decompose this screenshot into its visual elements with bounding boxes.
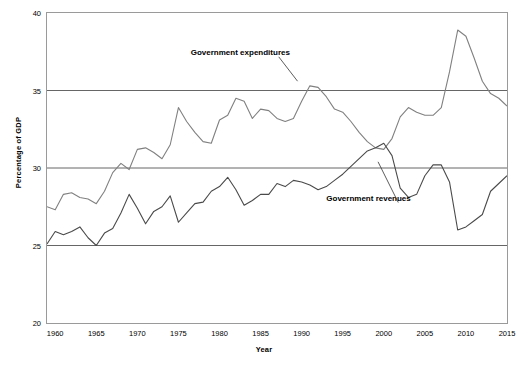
chart-container: Government expendituresGovernment revenu… xyxy=(0,0,528,368)
x-tick-label: 1980 xyxy=(211,329,228,338)
x-axis-title: Year xyxy=(0,345,528,354)
x-tick-label: 1985 xyxy=(252,329,269,338)
series-line-revenues xyxy=(47,143,507,245)
x-tick-label: 2005 xyxy=(417,329,434,338)
y-tick-label: 25 xyxy=(33,242,41,251)
x-tick-label: 1965 xyxy=(88,329,105,338)
annotation-leader-expenditures xyxy=(279,57,298,81)
y-tick-label: 35 xyxy=(33,87,41,96)
y-tick-label: 30 xyxy=(33,164,41,173)
series-line-expenditures xyxy=(47,30,507,210)
x-tick-label: 1975 xyxy=(170,329,187,338)
x-tick-label: 1970 xyxy=(129,329,146,338)
x-tick-label: 1960 xyxy=(47,329,64,338)
x-tick-label: 2015 xyxy=(499,329,516,338)
x-tick-label: 2010 xyxy=(458,329,475,338)
annotation-revenues: Government revenues xyxy=(326,194,411,203)
plot-svg: Government expendituresGovernment revenu… xyxy=(47,13,507,323)
plot-area: Government expendituresGovernment revenu… xyxy=(46,12,508,324)
annotation-expenditures: Government expenditures xyxy=(191,48,291,57)
x-tick-label: 1995 xyxy=(334,329,351,338)
y-tick-label: 20 xyxy=(33,319,41,328)
x-tick-label: 2000 xyxy=(375,329,392,338)
x-tick-label: 1990 xyxy=(293,329,310,338)
y-axis-title: Percentage of GDP xyxy=(14,113,23,193)
y-tick-label: 40 xyxy=(33,9,41,18)
